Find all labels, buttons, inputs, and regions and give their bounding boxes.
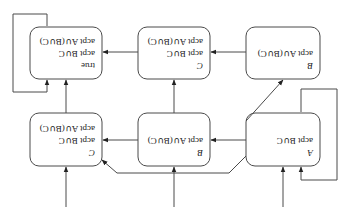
automaton-diagram: A acpt B∪C B acpt A∪(B∪C) C acpt B∪C acp… [0,0,349,212]
node-B-bottom-line1: acpt A∪(B∪C) [258,49,313,59]
node-B-bottom: B acpt A∪(B∪C) [246,27,320,79]
node-true-name: true [81,61,95,71]
node-B-top-name: B [197,148,203,158]
node-A-line1: acpt B∪C [277,136,313,146]
node-C-bottom-name: C [196,61,203,71]
node-C-top-name: C [88,148,95,158]
node-C-bottom: C acpt B∪C acpt A∪(B∪C) [138,27,210,79]
node-A: A acpt B∪C [246,113,320,166]
node-C-top-line2: acpt A∪(B∪C) [40,124,95,134]
node-B-top: B acpt A∪(B∪C) [138,113,210,166]
node-B-bottom-name: B [307,61,313,71]
node-A-name: A [307,148,314,158]
node-C-top-line1: acpt B∪C [59,136,95,146]
node-C-bottom-line2: acpt A∪(B∪C) [148,37,203,47]
rotated-diagram-group: A acpt B∪C B acpt A∪(B∪C) C acpt B∪C acp… [13,14,337,207]
node-true-line1: acpt B∪C [59,49,95,59]
node-C-top: C acpt B∪C acpt A∪(B∪C) [30,113,102,166]
node-C-bottom-line1: acpt B∪C [167,49,203,59]
node-true: true acpt B∪C acpt A∪(B∪C) [30,27,102,79]
node-B-top-line1: acpt A∪(B∪C) [148,136,203,146]
node-true-line2: acpt A∪(B∪C) [40,37,95,47]
